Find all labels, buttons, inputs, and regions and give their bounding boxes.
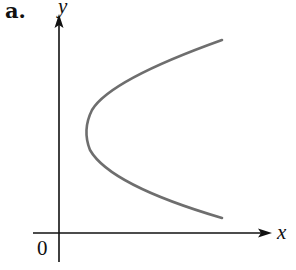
parabola-curve <box>86 40 222 218</box>
graph-canvas <box>0 0 296 270</box>
panel-label: a. <box>5 0 26 23</box>
y-axis-label: y <box>58 0 67 19</box>
origin-label: 0 <box>37 236 48 261</box>
x-axis-label: x <box>277 220 286 245</box>
graph-figure: a. y x 0 <box>0 0 296 270</box>
